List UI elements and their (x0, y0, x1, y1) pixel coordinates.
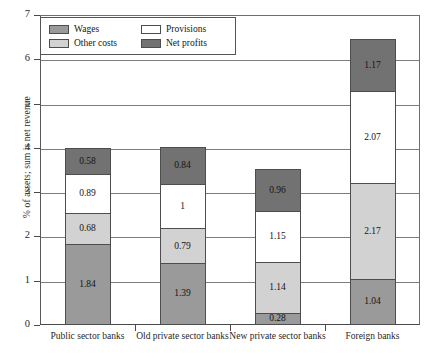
bar-segment-other-costs[interactable]: 0.79 (160, 228, 206, 263)
category-label-1: Public sector banks (36, 331, 140, 343)
legend-swatch-icon (49, 25, 69, 34)
bar-segment-provisions[interactable]: 1.15 (255, 211, 301, 262)
legend-item-wages[interactable]: Wages (49, 24, 137, 34)
y-tick-mark (34, 236, 40, 237)
bar-4[interactable]: 1.042.172.071.17 (350, 39, 396, 325)
bar-segment-provisions[interactable]: 2.07 (350, 91, 396, 183)
bar-segment-provisions[interactable]: 1 (160, 184, 206, 228)
y-tick-label: 6 (4, 52, 30, 63)
bar-segment-other-costs[interactable]: 0.68 (65, 213, 111, 243)
legend-label: Other costs (74, 38, 117, 48)
legend-label: Provisions (166, 24, 206, 34)
stacked-bar-chart: % of assets; sum is net revenue 01234567… (0, 0, 434, 360)
y-tick-label: 5 (4, 97, 30, 108)
bar-segment-wages[interactable]: 1.04 (350, 279, 396, 325)
y-tick-label: 0 (4, 318, 30, 329)
legend-item-provisions[interactable]: Provisions (141, 24, 229, 34)
y-tick-label: 7 (4, 8, 30, 19)
bar-segment-net-profits[interactable]: 0.58 (65, 148, 111, 174)
bar-segment-net-profits[interactable]: 0.96 (255, 169, 301, 212)
bar-1[interactable]: 1.840.680.890.58 (65, 148, 111, 325)
y-tick-mark (34, 148, 40, 149)
category-label-3: New private sector banks (226, 331, 330, 343)
legend-item-other-costs[interactable]: Other costs (49, 38, 137, 48)
legend-swatch-icon (141, 39, 161, 48)
bar-segment-wages[interactable]: 1.84 (65, 244, 111, 325)
chart-legend: WagesProvisionsOther costsNet profits (40, 17, 236, 55)
bar-segment-wages[interactable]: 0.28 (255, 313, 301, 325)
legend-label: Net profits (166, 38, 207, 48)
y-tick-mark (34, 281, 40, 282)
legend-label: Wages (74, 24, 99, 34)
bar-segment-other-costs[interactable]: 2.17 (350, 183, 396, 279)
bar-segment-wages[interactable]: 1.39 (160, 263, 206, 325)
legend-swatch-icon (141, 25, 161, 34)
y-tick-label: 4 (4, 141, 30, 152)
y-tick-mark (34, 192, 40, 193)
bar-3[interactable]: 0.281.141.150.96 (255, 169, 301, 325)
bar-segment-other-costs[interactable]: 1.14 (255, 262, 301, 312)
bar-2[interactable]: 1.390.7910.84 (160, 147, 206, 325)
bar-segment-net-profits[interactable]: 0.84 (160, 147, 206, 184)
legend-item-net-profits[interactable]: Net profits (141, 38, 229, 48)
y-tick-mark (34, 325, 40, 326)
category-label-2: Old private sector banks (131, 331, 235, 343)
legend-swatch-icon (49, 39, 69, 48)
y-tick-label: 2 (4, 229, 30, 240)
y-tick-mark (34, 15, 40, 16)
bar-segment-net-profits[interactable]: 1.17 (350, 39, 396, 91)
category-label-4: Foreign banks (321, 331, 425, 343)
y-axis-title: % of assets; sum is net revenue (22, 62, 32, 252)
y-tick-mark (34, 104, 40, 105)
y-tick-label: 1 (4, 274, 30, 285)
y-tick-label: 3 (4, 185, 30, 196)
y-tick-mark (34, 59, 40, 60)
bar-segment-provisions[interactable]: 0.89 (65, 174, 111, 213)
